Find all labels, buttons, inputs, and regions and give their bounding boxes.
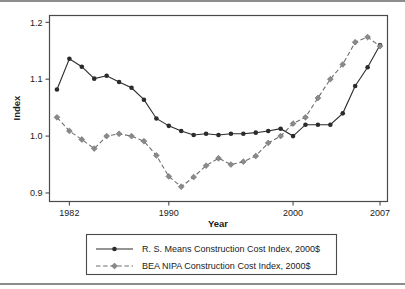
y-tick-label: 0.9 — [30, 188, 43, 198]
data-point — [55, 87, 60, 92]
data-point — [253, 130, 258, 135]
legend-label: BEA NIPA Construction Cost Index, 2000$ — [142, 261, 310, 271]
x-tick-label: 1990 — [159, 208, 179, 218]
chart-legend: R. S. Means Construction Cost Index, 200… — [87, 235, 337, 275]
data-point — [92, 76, 97, 81]
data-point — [365, 65, 370, 70]
data-point — [291, 134, 296, 139]
x-axis-title: Year — [208, 218, 228, 229]
data-point — [315, 95, 321, 101]
data-point — [67, 56, 72, 61]
bottom-divider-rule — [0, 283, 405, 285]
y-tick-label: 1.0 — [30, 131, 43, 141]
y-tick-label: 1.2 — [30, 18, 43, 28]
data-point — [104, 133, 110, 139]
series-layer — [54, 34, 383, 189]
data-point — [228, 162, 234, 168]
x-tick-label: 2000 — [283, 208, 303, 218]
y-tick-label: 1.1 — [30, 74, 43, 84]
data-point — [266, 129, 271, 134]
x-axis-ticks — [69, 202, 380, 206]
data-point — [191, 133, 196, 138]
chart-figure: 0.91.01.11.2 1982199020002007 Index Year… — [0, 0, 405, 289]
data-point — [229, 132, 234, 137]
data-point — [80, 64, 85, 69]
data-point — [303, 122, 308, 127]
data-point — [142, 97, 147, 102]
data-point — [216, 155, 222, 161]
legend-marker — [112, 247, 117, 252]
data-point — [204, 132, 209, 137]
y-axis-tick-labels: 0.91.01.11.2 — [30, 18, 43, 199]
construction-cost-index-chart: 0.91.01.11.2 1982199020002007 Index Year… — [0, 0, 405, 289]
data-point — [240, 159, 246, 165]
plot-frame — [50, 16, 388, 202]
x-axis-tick-labels: 1982199020002007 — [59, 208, 390, 218]
data-point — [154, 116, 159, 121]
data-point — [278, 126, 283, 131]
data-point — [116, 131, 122, 137]
data-point — [352, 39, 358, 45]
data-point — [265, 140, 271, 146]
data-point — [129, 133, 135, 139]
data-point — [216, 133, 221, 138]
data-point — [328, 122, 333, 127]
data-point — [104, 73, 109, 78]
legend-label: R. S. Means Construction Cost Index, 200… — [142, 244, 320, 254]
x-tick-label: 1982 — [59, 208, 79, 218]
data-point — [117, 80, 122, 85]
data-point — [253, 153, 259, 159]
data-point — [316, 122, 321, 127]
data-point — [241, 132, 246, 137]
data-point — [179, 129, 184, 134]
top-divider-rule — [0, 0, 405, 2]
data-point — [129, 85, 134, 90]
series-rs-means — [55, 43, 383, 139]
series-line — [57, 45, 380, 136]
series-line — [57, 37, 380, 187]
data-point — [353, 84, 358, 89]
series-bea-nipa — [54, 34, 383, 189]
y-axis-title: Index — [11, 95, 22, 121]
data-point — [340, 111, 345, 116]
x-tick-label: 2007 — [370, 208, 390, 218]
data-point — [166, 124, 171, 129]
data-point — [303, 114, 309, 120]
